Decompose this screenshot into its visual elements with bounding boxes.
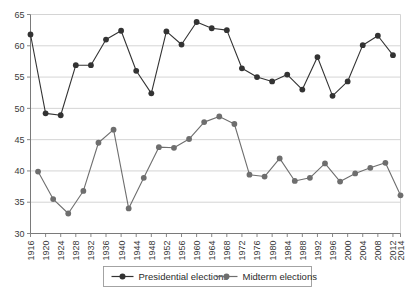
data-point <box>239 65 245 71</box>
data-point <box>345 79 351 85</box>
data-point <box>299 87 305 93</box>
chart-container: 3035404550556065 19161920192419281932193… <box>0 0 415 294</box>
x-axis-tick-label: 1932 <box>86 241 96 261</box>
data-point <box>43 110 49 116</box>
data-point <box>284 72 290 78</box>
data-point <box>65 211 71 217</box>
x-axis-tick-label: 1920 <box>41 241 51 261</box>
x-axis-tick-label: 2008 <box>373 241 383 261</box>
series-midterm <box>35 114 403 217</box>
x-axis-tick-label: 1924 <box>56 241 66 261</box>
data-point <box>171 145 177 151</box>
legend-label: Presidential elections <box>139 271 229 282</box>
y-axis-tick-label: 55 <box>14 72 24 82</box>
x-axis-tick-label: 1928 <box>71 241 81 261</box>
data-point <box>330 93 336 99</box>
x-axis-tick-label: 1964 <box>207 241 217 261</box>
data-point <box>118 28 124 34</box>
data-point <box>307 175 313 181</box>
data-point <box>262 174 268 180</box>
data-point <box>141 175 147 181</box>
x-axis-tick-label: 1952 <box>162 241 172 261</box>
data-point <box>164 28 170 34</box>
data-point <box>156 144 162 150</box>
data-point <box>209 25 215 31</box>
data-point <box>35 169 41 175</box>
x-axis-tick-label: 1944 <box>132 241 142 261</box>
data-point <box>231 121 237 127</box>
x-axis-tick-label: 1980 <box>268 241 278 261</box>
x-axis-tick-label: 1960 <box>192 241 202 261</box>
gridlines-group <box>31 15 401 234</box>
x-axis-group: 1916192019241928193219361940194419481952… <box>26 234 406 261</box>
legend-marker-icon <box>224 274 230 280</box>
data-point <box>186 136 192 142</box>
data-point <box>337 179 343 185</box>
y-axis-tick-label: 45 <box>14 135 24 145</box>
data-point <box>73 62 79 68</box>
data-point <box>58 112 64 118</box>
data-point <box>352 171 358 177</box>
data-point <box>277 156 283 162</box>
data-point <box>28 32 34 38</box>
x-axis-tick-label: 1956 <box>177 241 187 261</box>
x-axis-tick-label: 1940 <box>117 241 127 261</box>
data-point <box>111 127 117 133</box>
x-axis-tick-label: 1972 <box>237 241 247 261</box>
y-axis-tick-label: 35 <box>14 197 24 207</box>
series-group <box>28 19 404 216</box>
y-axis-tick-label: 60 <box>14 41 24 51</box>
data-point <box>398 192 404 198</box>
data-point <box>254 74 260 80</box>
data-point <box>179 42 185 48</box>
data-point <box>88 62 94 68</box>
series-line <box>38 116 400 213</box>
data-point <box>322 161 328 167</box>
data-point <box>292 178 298 184</box>
data-point <box>133 68 139 74</box>
data-point <box>80 188 86 194</box>
data-point <box>148 90 154 96</box>
x-axis-tick-label: 1992 <box>313 241 323 261</box>
x-axis-tick-label: 2004 <box>358 241 368 261</box>
y-axis-tick-label: 65 <box>14 10 24 20</box>
data-point <box>194 19 200 25</box>
legend-label: Midterm elections <box>243 271 318 282</box>
data-point <box>216 114 222 120</box>
data-point <box>103 37 109 43</box>
x-axis-tick-label: 1968 <box>222 241 232 261</box>
series-line <box>31 22 393 115</box>
line-chart: 3035404550556065 19161920192419281932193… <box>0 0 415 294</box>
data-point <box>201 119 207 125</box>
x-axis-tick-label: 2014 <box>396 241 406 261</box>
data-point <box>96 140 102 146</box>
x-axis-tick-label: 1916 <box>26 241 36 261</box>
x-axis-tick-label: 1936 <box>101 241 111 261</box>
x-axis-tick-label: 1948 <box>147 241 157 261</box>
x-axis-tick-label: 1976 <box>252 241 262 261</box>
data-point <box>224 27 230 33</box>
y-axis-tick-label: 40 <box>14 166 24 176</box>
data-point <box>390 52 396 58</box>
chart-legend: Presidential electionsMidterm elections <box>104 267 318 287</box>
data-point <box>269 79 275 85</box>
series-presidential <box>28 19 396 118</box>
y-axis-tick-label: 50 <box>14 104 24 114</box>
y-axis-tick-label: 30 <box>14 229 24 239</box>
data-point <box>50 196 56 202</box>
data-point <box>126 206 132 212</box>
y-axis-group: 3035404550556065 <box>14 10 30 239</box>
data-point <box>375 33 381 39</box>
data-point <box>360 42 366 48</box>
x-axis-tick-label: 1996 <box>328 241 338 261</box>
data-point <box>315 54 321 60</box>
data-point <box>367 165 373 171</box>
x-axis-tick-label: 2000 <box>343 241 353 261</box>
legend-marker-icon <box>120 274 126 280</box>
x-axis-tick-label: 1984 <box>283 241 293 261</box>
data-point <box>247 172 253 178</box>
x-axis-tick-label: 1988 <box>298 241 308 261</box>
data-point <box>383 160 389 166</box>
